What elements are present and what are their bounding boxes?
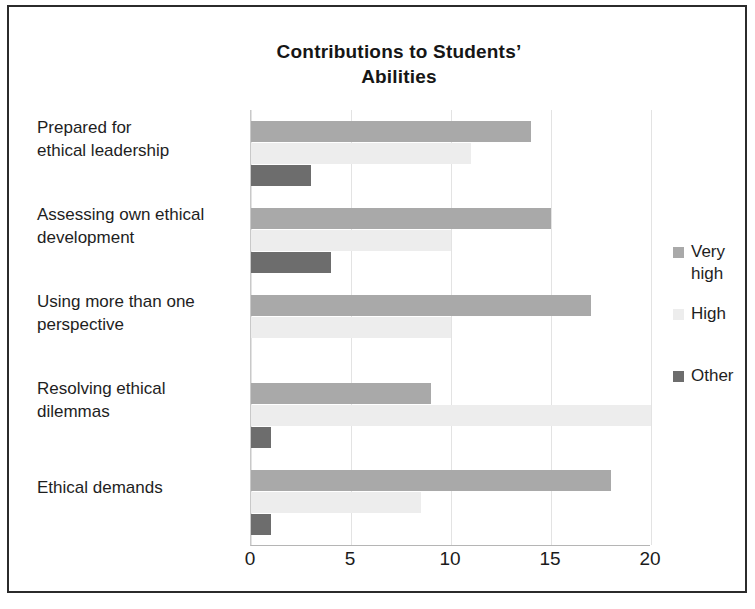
bar[interactable] bbox=[251, 405, 651, 426]
bar-group bbox=[251, 459, 650, 546]
y-axis-label-line: Assessing own ethical bbox=[37, 203, 245, 226]
y-axis-category-labels: Prepared for ethical leadership Assessin… bbox=[37, 110, 245, 546]
bar[interactable] bbox=[251, 230, 451, 251]
bar[interactable] bbox=[251, 208, 551, 229]
legend-label: High bbox=[691, 303, 726, 325]
bar[interactable] bbox=[251, 295, 591, 316]
chart-title-line-2: Abilities bbox=[189, 64, 609, 89]
bar[interactable] bbox=[251, 470, 611, 491]
y-axis-label-line: perspective bbox=[37, 313, 245, 336]
bar[interactable] bbox=[251, 252, 331, 273]
y-axis-label-resolving-ethical-dilemmas: Resolving ethical dilemmas bbox=[37, 377, 245, 423]
y-axis-label-ethical-demands: Ethical demands bbox=[37, 476, 245, 499]
bar[interactable] bbox=[251, 514, 271, 535]
y-axis-label-using-more-than-one-perspective: Using more than one perspective bbox=[37, 290, 245, 336]
bar[interactable] bbox=[251, 383, 431, 404]
bar-group bbox=[251, 110, 650, 197]
y-axis-label-line: Resolving ethical bbox=[37, 377, 245, 400]
bar-group bbox=[251, 372, 650, 459]
y-axis-label-line: ethical leadership bbox=[37, 139, 245, 162]
bar[interactable] bbox=[251, 427, 271, 448]
legend-item-high[interactable]: High bbox=[673, 303, 726, 325]
chart-title: Contributions to Students’ Abilities bbox=[189, 39, 609, 89]
x-axis-tick-20: 20 bbox=[628, 548, 672, 570]
bar[interactable] bbox=[251, 143, 471, 164]
x-axis-tick-5: 5 bbox=[328, 548, 372, 570]
chart-frame: Contributions to Students’ Abilities Pre… bbox=[7, 5, 747, 593]
plot-area bbox=[250, 110, 650, 546]
bar-group bbox=[251, 284, 650, 371]
x-axis-tick-10: 10 bbox=[428, 548, 472, 570]
legend-swatch-icon bbox=[673, 371, 684, 382]
bar[interactable] bbox=[251, 492, 421, 513]
legend-swatch-icon bbox=[673, 247, 684, 258]
bar-group bbox=[251, 197, 650, 284]
x-axis-tick-15: 15 bbox=[528, 548, 572, 570]
bar[interactable] bbox=[251, 317, 451, 338]
y-axis-label-line: dilemmas bbox=[37, 400, 245, 423]
y-axis-label-line: Ethical demands bbox=[37, 476, 245, 499]
y-axis-label-line: Prepared for bbox=[37, 116, 245, 139]
y-axis-label-prepared-for-ethical-leadership: Prepared for ethical leadership bbox=[37, 116, 245, 162]
chart-title-line-1: Contributions to Students’ bbox=[189, 39, 609, 64]
legend-label: Other bbox=[691, 365, 734, 387]
y-axis-label-line: Using more than one bbox=[37, 290, 245, 313]
legend-item-other[interactable]: Other bbox=[673, 365, 734, 387]
bar[interactable] bbox=[251, 121, 531, 142]
x-axis-tick-0: 0 bbox=[228, 548, 272, 570]
legend-label: Very high bbox=[691, 241, 725, 285]
legend-item-very-high[interactable]: Very high bbox=[673, 241, 725, 285]
x-axis-tick-labels: 05101520 bbox=[250, 548, 650, 576]
bar[interactable] bbox=[251, 165, 311, 186]
legend-swatch-icon bbox=[673, 309, 684, 320]
y-axis-label-line: development bbox=[37, 226, 245, 249]
y-axis-label-assessing-own-ethical-development: Assessing own ethical development bbox=[37, 203, 245, 249]
gridline-20 bbox=[651, 110, 652, 545]
